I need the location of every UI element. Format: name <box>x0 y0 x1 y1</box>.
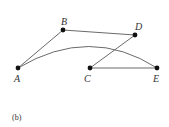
node-c <box>88 66 93 71</box>
node-label-d: D <box>134 21 143 32</box>
node-d <box>133 33 138 38</box>
edge-a-e-curved <box>18 47 157 69</box>
node-labels: A B D C E <box>13 16 159 84</box>
edge-a-b <box>18 30 63 68</box>
edge-d-c <box>90 35 135 68</box>
node-label-b: B <box>61 16 67 27</box>
node-b <box>61 28 66 33</box>
node-a <box>16 66 21 71</box>
edge-b-d <box>63 30 135 35</box>
nodes <box>16 28 160 71</box>
node-label-c: C <box>84 73 91 84</box>
node-e <box>155 66 160 71</box>
node-label-a: A <box>13 73 21 84</box>
figure-caption: (b) <box>12 114 21 122</box>
node-label-e: E <box>152 73 159 84</box>
graph-diagram: A B D C E <box>0 0 169 127</box>
